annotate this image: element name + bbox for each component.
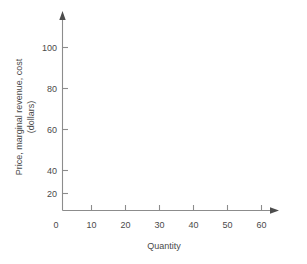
y-axis-units-label: (dollars) <box>26 101 36 134</box>
x-tick-label-30: 30 <box>154 220 164 230</box>
y-tick-label-40: 40 <box>47 166 57 176</box>
x-tick-label-50: 50 <box>222 220 232 230</box>
x-axis-title: Quantity <box>147 241 181 251</box>
y-tick-label-100: 100 <box>42 43 57 53</box>
x-tick-label-10: 10 <box>86 220 96 230</box>
x-tick-label-0: 0 <box>53 220 58 230</box>
y-axis-arrow-icon <box>59 11 65 20</box>
y-axis-title: Price, marginal revenue, cost <box>14 58 24 175</box>
y-tick-label-80: 80 <box>47 84 57 94</box>
x-axis-ticks <box>92 205 262 211</box>
x-tick-label-20: 20 <box>120 220 130 230</box>
x-tick-label-40: 40 <box>188 220 198 230</box>
x-axis-arrow-icon <box>270 207 279 213</box>
blank-axes-plot: 100 80 60 40 20 0 10 20 30 40 50 60 Quan… <box>0 0 307 264</box>
y-tick-label-20: 20 <box>47 189 57 199</box>
x-tick-label-60: 60 <box>256 220 266 230</box>
y-tick-label-60: 60 <box>47 125 57 135</box>
y-axis-ticks <box>63 48 69 194</box>
chart-figure: 100 80 60 40 20 0 10 20 30 40 50 60 Quan… <box>0 0 307 264</box>
